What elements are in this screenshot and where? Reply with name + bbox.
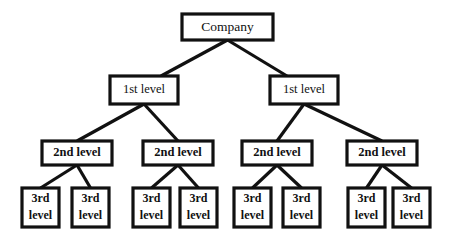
level2-0-label: 2nd level bbox=[53, 145, 101, 159]
level3-6-label-line2: level bbox=[355, 208, 379, 222]
node-level3-4[interactable]: 3rd level bbox=[234, 188, 271, 227]
edge-level2-3-to-level3-7 bbox=[382, 165, 412, 188]
level3-7-label-line1: 3rd bbox=[403, 191, 421, 205]
level3-1-label-line1: 3rd bbox=[82, 191, 100, 205]
level3-0-label-line2: level bbox=[29, 208, 53, 222]
company-label: Company bbox=[201, 19, 254, 34]
edge-level2-0-to-level3-0 bbox=[41, 165, 78, 188]
level3-6-label-line1: 3rd bbox=[358, 191, 376, 205]
node-level2-1[interactable]: 2nd level bbox=[143, 141, 213, 165]
org-chart-canvas: Company 1st level 1st level 2nd level 2n… bbox=[0, 0, 451, 240]
edge-root-to-level1-left bbox=[161, 40, 228, 76]
node-level3-3[interactable]: 3rd level bbox=[180, 188, 217, 227]
node-level3-6[interactable]: 3rd level bbox=[348, 188, 385, 227]
edge-level1-right-to-level2-3 bbox=[304, 104, 382, 141]
level2-2-label: 2nd level bbox=[253, 145, 301, 159]
level2-3-label: 2nd level bbox=[358, 145, 406, 159]
level3-1-label-line2: level bbox=[79, 208, 103, 222]
edge-level2-0-to-level3-1 bbox=[77, 165, 91, 188]
node-level3-0[interactable]: 3rd level bbox=[22, 188, 59, 227]
edge-level2-2-to-level3-5 bbox=[277, 165, 302, 188]
node-company[interactable]: Company bbox=[182, 14, 273, 40]
node-level1-left[interactable]: 1st level bbox=[110, 76, 178, 104]
level3-0-label-line1: 3rd bbox=[32, 191, 50, 205]
edge-level2-2-to-level3-4 bbox=[253, 165, 278, 188]
edge-level2-1-to-level3-2 bbox=[152, 165, 179, 188]
edge-level1-left-to-level2-0 bbox=[77, 104, 144, 141]
level1-right-label: 1st level bbox=[283, 82, 326, 96]
level3-7-label-line2: level bbox=[400, 208, 424, 222]
node-level1-right[interactable]: 1st level bbox=[270, 76, 338, 104]
node-level2-2[interactable]: 2nd level bbox=[242, 141, 312, 165]
level3-5-label-line2: level bbox=[290, 208, 314, 222]
org-chart-diagram: Company 1st level 1st level 2nd level 2n… bbox=[0, 0, 451, 240]
node-level3-2[interactable]: 3rd level bbox=[133, 188, 170, 227]
node-level2-3[interactable]: 2nd level bbox=[347, 141, 417, 165]
level1-left-label: 1st level bbox=[123, 82, 166, 96]
node-level3-5[interactable]: 3rd level bbox=[283, 188, 320, 227]
level3-3-label-line1: 3rd bbox=[190, 191, 208, 205]
level3-5-label-line1: 3rd bbox=[293, 191, 311, 205]
level3-3-label-line2: level bbox=[187, 208, 211, 222]
level2-1-label: 2nd level bbox=[154, 145, 202, 159]
level3-4-label-line1: 3rd bbox=[244, 191, 262, 205]
level3-2-label-line2: level bbox=[140, 208, 164, 222]
edge-root-to-level1-right bbox=[228, 40, 288, 76]
node-level3-7[interactable]: 3rd level bbox=[393, 188, 430, 227]
edge-level2-3-to-level3-6 bbox=[367, 165, 383, 188]
edge-level1-right-to-level2-2 bbox=[277, 104, 304, 141]
node-level2-0[interactable]: 2nd level bbox=[42, 141, 112, 165]
edge-level2-1-to-level3-3 bbox=[178, 165, 199, 188]
node-level3-1[interactable]: 3rd level bbox=[72, 188, 109, 227]
level3-2-label-line1: 3rd bbox=[143, 191, 161, 205]
level3-4-label-line2: level bbox=[241, 208, 265, 222]
edge-level1-left-to-level2-1 bbox=[144, 104, 178, 141]
